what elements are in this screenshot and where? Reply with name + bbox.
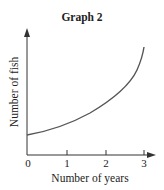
- x-tick-label-3: 3: [141, 157, 147, 169]
- x-axis-arrow-icon: [147, 152, 156, 158]
- x-tick-label-0: 0: [25, 157, 31, 169]
- x-tick-label-2: 2: [103, 157, 109, 169]
- y-axis-arrow-icon: [24, 28, 30, 37]
- x-axis-label: Number of years: [25, 172, 155, 184]
- fish-growth-curve: [27, 47, 144, 135]
- x-tick-label-1: 1: [64, 157, 70, 169]
